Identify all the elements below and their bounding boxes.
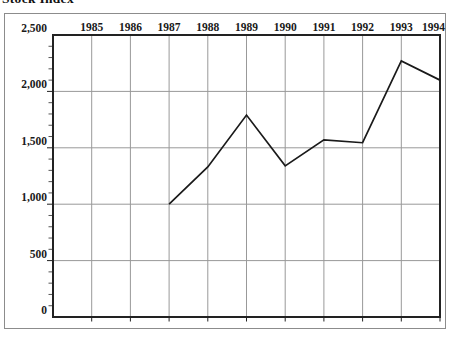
x-axis-label: 1985: [80, 21, 103, 33]
x-axis-label: 1992: [351, 21, 374, 33]
x-axis-label: 1990: [274, 21, 297, 33]
data-line: [169, 61, 440, 204]
x-axis-label: 1988: [196, 21, 219, 33]
x-axis-label: 1987: [158, 21, 181, 33]
y-axis-label: 500: [30, 248, 48, 260]
y-axis-label: 2,000: [21, 78, 47, 90]
x-axis-label: 1989: [235, 21, 258, 33]
y-axis-label: 0: [41, 304, 47, 316]
x-axis-label: 1991: [312, 21, 335, 33]
y-axis-label: 1,500: [21, 135, 47, 147]
chart-canvas: 1985198619871988198919901991199219931994…: [0, 0, 452, 337]
x-axis-label: 1986: [119, 21, 142, 33]
x-axis-label: 1993: [390, 21, 413, 33]
chart-page: Stock Index 1985198619871988198919901991…: [0, 0, 452, 337]
y-axis-label: 1,000: [21, 191, 47, 203]
y-axis-label: 2,500: [21, 22, 47, 34]
x-axis-label: 1994: [422, 21, 445, 33]
